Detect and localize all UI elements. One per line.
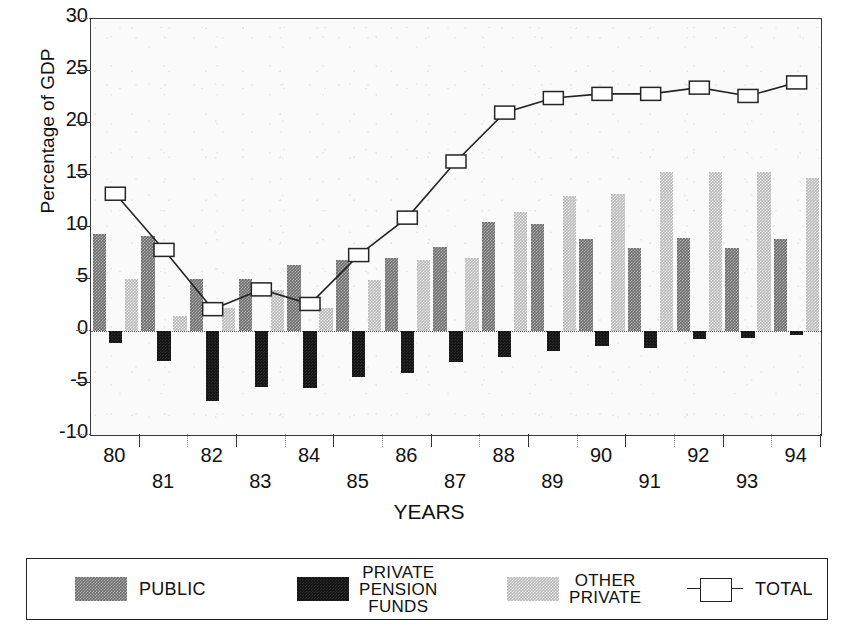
total-marker-85 <box>349 249 369 262</box>
y-tickmark <box>76 330 90 331</box>
total-marker-94 <box>787 76 807 89</box>
y-tickmark <box>76 382 90 383</box>
total-marker-90 <box>592 87 612 100</box>
y-axis-tick-labels: 302520151050-5-10 <box>0 0 88 628</box>
x-tick-89: 89 <box>529 470 575 493</box>
x-tick-81: 81 <box>140 470 186 493</box>
total-marker-87 <box>446 155 466 168</box>
x-tick-84: 84 <box>286 444 332 467</box>
total-marker-86 <box>397 211 417 224</box>
y-tick-20: 20 <box>42 109 88 129</box>
x-tickmark <box>820 434 821 447</box>
x-tick-94: 94 <box>773 444 819 467</box>
x-tick-83: 83 <box>237 470 283 493</box>
total-marker-83 <box>251 283 271 296</box>
total-marker-88 <box>495 106 515 119</box>
x-tick-92: 92 <box>675 444 721 467</box>
x-tickmark <box>479 434 480 447</box>
x-tickmark <box>771 434 772 447</box>
x-tick-85: 85 <box>335 470 381 493</box>
x-tickmark <box>236 434 237 447</box>
x-tick-82: 82 <box>189 444 235 467</box>
x-tickmark <box>625 434 626 447</box>
total-marker-81 <box>154 243 174 256</box>
legend-item-private-pension-funds: PRIVATE PENSION FUNDS <box>297 559 438 619</box>
x-tickmark <box>382 434 383 447</box>
x-tickmark <box>674 434 675 447</box>
x-tick-80: 80 <box>91 444 137 467</box>
x-tick-88: 88 <box>481 444 527 467</box>
legend-label-pension-line3: FUNDS <box>368 597 428 616</box>
other-private-swatch-icon <box>507 577 559 601</box>
y-tick-0: 0 <box>42 317 88 337</box>
x-tick-93: 93 <box>724 470 770 493</box>
x-tick-87: 87 <box>432 470 478 493</box>
plot-area <box>90 18 822 436</box>
y-tick-30: 30 <box>42 5 88 25</box>
x-tick-90: 90 <box>578 444 624 467</box>
y-tickmark <box>76 122 90 123</box>
y-tickmark <box>76 226 90 227</box>
total-marker-93 <box>738 89 758 102</box>
y-tick-10: 10 <box>42 213 88 233</box>
total-line-layer <box>91 19 821 435</box>
total-marker-82 <box>203 303 223 316</box>
total-marker-80 <box>105 187 125 200</box>
legend-item-other-private: OTHER PRIVATE <box>507 559 641 619</box>
y-tickmark <box>76 70 90 71</box>
y-tick-neg10: -10 <box>42 421 88 441</box>
x-tickmark <box>723 434 724 447</box>
x-tick-86: 86 <box>383 444 429 467</box>
y-tickmark <box>76 18 90 19</box>
legend-label-public: PUBLIC <box>139 579 206 600</box>
y-tickmark <box>76 278 90 279</box>
legend-label-total: TOTAL <box>755 579 813 600</box>
total-marker-89 <box>543 92 563 105</box>
y-tickmark <box>76 174 90 175</box>
public-swatch-icon <box>75 577 127 601</box>
legend-item-total: TOTAL <box>687 559 813 619</box>
x-tickmark <box>528 434 529 447</box>
total-marker-91 <box>641 87 661 100</box>
y-tick-25: 25 <box>42 57 88 77</box>
total-marker-92 <box>689 81 709 94</box>
x-tickmark <box>285 434 286 447</box>
legend-item-public: PUBLIC <box>75 559 206 619</box>
x-tickmark <box>139 434 140 447</box>
x-tickmark <box>187 434 188 447</box>
y-tick-15: 15 <box>42 161 88 181</box>
legend: PUBLIC PRIVATE PENSION FUNDS OTHER PRIVA… <box>26 558 828 620</box>
x-tickmark <box>577 434 578 447</box>
y-tick-5: 5 <box>42 265 88 285</box>
y-tickmark <box>76 434 90 435</box>
total-marker-icon <box>687 576 743 602</box>
x-axis-title: YEARS <box>0 500 858 524</box>
x-tickmark <box>333 434 334 447</box>
pension-swatch-icon <box>297 577 349 601</box>
y-tick-neg5: -5 <box>42 369 88 389</box>
legend-label-pension: PRIVATE PENSION FUNDS <box>359 564 438 615</box>
total-marker-84 <box>300 297 320 310</box>
x-tick-91: 91 <box>627 470 673 493</box>
chart-root: Percentage of GDP 302520151050-5-10 8081… <box>0 0 858 628</box>
total-markers <box>105 76 806 316</box>
legend-label-other: OTHER PRIVATE <box>569 572 641 606</box>
x-tickmark <box>431 434 432 447</box>
total-line <box>115 82 796 309</box>
legend-label-other-line2: PRIVATE <box>569 588 641 607</box>
